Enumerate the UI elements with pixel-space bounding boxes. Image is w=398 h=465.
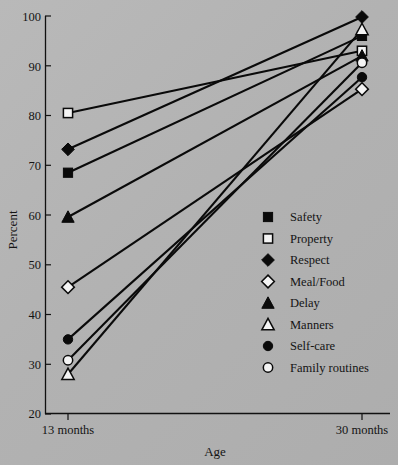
legend-label: Meal/Food: [290, 275, 346, 289]
legend-marker-open-square-icon: [263, 234, 272, 243]
y-tick-label-50: 50: [29, 258, 42, 272]
legend-label: Safety: [290, 210, 323, 224]
legend-item-family-routines[interactable]: Family routines: [263, 361, 369, 375]
legend-marker-filled-diamond-icon: [262, 254, 275, 267]
series-line: [68, 17, 362, 149]
data-point-marker[interactable]: [356, 83, 369, 96]
data-point-marker[interactable]: [357, 58, 366, 67]
data-point-marker[interactable]: [63, 168, 72, 177]
legend-item-manners[interactable]: Manners: [262, 318, 334, 332]
y-tick-label-70: 70: [29, 159, 42, 173]
x-tick-label-right: 30 months: [336, 423, 389, 437]
legend-label: Family routines: [290, 361, 369, 375]
series-respect[interactable]: [62, 11, 369, 156]
data-point-marker[interactable]: [356, 11, 369, 24]
legend-item-property[interactable]: Property: [263, 232, 333, 246]
data-point-marker[interactable]: [356, 23, 368, 34]
legend-marker-filled-square-icon: [263, 212, 272, 221]
legend-marker-open-circle-icon: [263, 363, 272, 372]
x-axis-label: Age: [204, 444, 226, 459]
legend-marker-open-triangle-icon: [262, 318, 274, 329]
data-point-marker[interactable]: [62, 211, 74, 222]
x-tick-label-left: 13 months: [42, 423, 95, 437]
legend-item-respect[interactable]: Respect: [262, 253, 330, 267]
data-point-marker[interactable]: [63, 108, 72, 117]
y-tick-label-100: 100: [22, 10, 41, 24]
y-tick-label-40: 40: [29, 308, 42, 322]
legend-label: Self-care: [290, 339, 336, 353]
y-tick-label-20: 20: [29, 407, 42, 421]
y-tick-label-30: 30: [29, 358, 42, 372]
chart-legend: SafetyPropertyRespectMeal/FoodDelayManne…: [262, 210, 369, 375]
y-tick-label-90: 90: [29, 60, 42, 74]
data-point-marker[interactable]: [63, 356, 72, 365]
legend-label: Manners: [290, 318, 334, 332]
legend-label: Delay: [290, 296, 321, 310]
data-point-marker[interactable]: [63, 335, 72, 344]
legend-item-self-care[interactable]: Self-care: [263, 339, 335, 353]
legend-marker-open-diamond-icon: [262, 275, 275, 288]
legend-label: Property: [290, 232, 334, 246]
legend-item-delay[interactable]: Delay: [262, 296, 321, 310]
line-chart: Percent 100 90 80 70 60 50 40 30 20 13 m…: [0, 0, 398, 465]
legend-item-safety[interactable]: Safety: [263, 210, 322, 224]
chart-figure: Percent 100 90 80 70 60 50 40 30 20 13 m…: [0, 0, 398, 465]
series-property[interactable]: [63, 46, 366, 117]
data-point-marker[interactable]: [357, 73, 366, 82]
y-axis-label: Percent: [5, 210, 20, 249]
data-point-marker[interactable]: [62, 281, 75, 294]
legend-marker-filled-circle-icon: [263, 341, 272, 350]
data-point-marker[interactable]: [62, 143, 75, 156]
series-self-care[interactable]: [63, 73, 366, 345]
legend-label: Respect: [290, 253, 330, 267]
y-tick-label-60: 60: [29, 209, 42, 223]
legend-marker-filled-triangle-icon: [262, 297, 274, 308]
legend-item-meal-food[interactable]: Meal/Food: [262, 275, 346, 289]
y-tick-label-80: 80: [29, 109, 42, 123]
